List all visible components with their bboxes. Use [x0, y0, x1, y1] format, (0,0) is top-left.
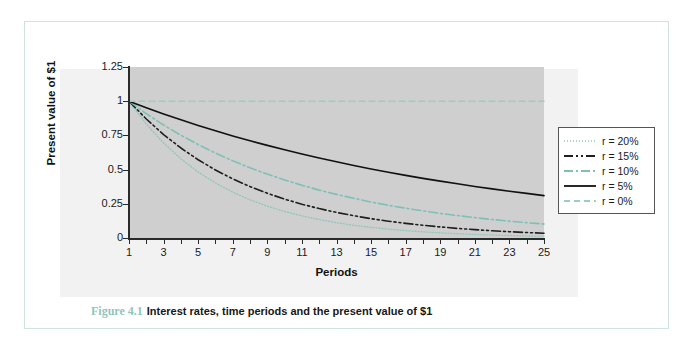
legend-label: r = 5%	[597, 180, 633, 192]
legend-item[interactable]: r = 15%	[563, 148, 650, 163]
x-tick-label: 5	[186, 246, 210, 258]
y-tick-mark	[123, 135, 129, 136]
x-tick-mark	[198, 239, 199, 244]
y-tick-label: 1	[79, 94, 123, 106]
legend-label: r = 20%	[597, 135, 638, 147]
legend-label: r = 0%	[597, 195, 633, 207]
x-tick-label: 15	[359, 246, 383, 258]
x-tick-label: 9	[255, 246, 279, 258]
y-axis-title: Present value of $1	[45, 43, 57, 183]
y-tick-label: 0	[79, 231, 123, 243]
y-tick-mark	[123, 67, 129, 68]
x-tick-label: 13	[325, 246, 349, 258]
y-tick-mark	[123, 101, 129, 102]
legend-item[interactable]: r = 10%	[563, 163, 650, 178]
x-tick-mark	[250, 239, 251, 244]
figure-caption: Figure 4.1Interest rates, time periods a…	[91, 304, 432, 319]
x-tick-label: 11	[290, 246, 314, 258]
x-tick-label: 23	[497, 246, 521, 258]
legend-label: r = 15%	[597, 150, 638, 162]
y-axis-line	[128, 66, 130, 239]
x-tick-mark	[544, 239, 545, 244]
chart-area: 00.250.50.7511.25 135791113151719212325 …	[25, 22, 670, 330]
legend-line-swatch	[563, 166, 597, 176]
series-line	[129, 101, 544, 195]
figure-number: Figure 4.1	[91, 304, 143, 318]
x-tick-label: 17	[394, 246, 418, 258]
legend-line-swatch	[563, 181, 597, 191]
x-tick-mark	[337, 239, 338, 244]
figure-container: 00.250.50.7511.25 135791113151719212325 …	[24, 21, 669, 329]
legend-line-swatch	[563, 196, 597, 206]
x-tick-label: 1	[117, 246, 141, 258]
x-tick-label: 7	[221, 246, 245, 258]
series-line	[129, 101, 544, 236]
legend-line-swatch	[563, 151, 597, 161]
x-tick-mark	[267, 239, 268, 244]
x-tick-label: 21	[463, 246, 487, 258]
x-tick-label: 25	[532, 246, 556, 258]
x-tick-mark	[302, 239, 303, 244]
x-tick-mark	[181, 239, 182, 244]
series-line	[129, 101, 544, 224]
x-tick-mark	[354, 239, 355, 244]
x-tick-label: 19	[428, 246, 452, 258]
legend-item[interactable]: r = 0%	[563, 193, 650, 208]
x-tick-mark	[164, 239, 165, 244]
x-tick-mark	[458, 239, 459, 244]
chart-legend: r = 20%r = 15%r = 10%r = 5%r = 0%	[558, 127, 655, 214]
x-tick-mark	[406, 239, 407, 244]
y-tick-label: 0.5	[79, 163, 123, 175]
x-tick-mark	[388, 239, 389, 244]
x-tick-mark	[146, 239, 147, 244]
x-tick-mark	[440, 239, 441, 244]
x-tick-mark	[285, 239, 286, 244]
x-tick-mark	[423, 239, 424, 244]
y-tick-label: 0.25	[79, 197, 123, 209]
x-axis-title: Periods	[129, 266, 544, 278]
y-tick-label: 1.25	[79, 60, 123, 72]
figure-caption-text: Interest rates, time periods and the pre…	[143, 305, 432, 317]
x-tick-mark	[527, 239, 528, 244]
legend-line-swatch	[563, 136, 597, 146]
y-tick-mark	[123, 204, 129, 205]
x-tick-mark	[371, 239, 372, 244]
y-tick-mark	[123, 170, 129, 171]
x-tick-mark	[215, 239, 216, 244]
legend-label: r = 10%	[597, 165, 638, 177]
x-tick-mark	[233, 239, 234, 244]
y-tick-label: 0.75	[79, 128, 123, 140]
x-tick-mark	[492, 239, 493, 244]
legend-item[interactable]: r = 20%	[563, 133, 650, 148]
x-tick-mark	[509, 239, 510, 244]
x-tick-mark	[475, 239, 476, 244]
x-tick-label: 3	[152, 246, 176, 258]
x-tick-mark	[129, 239, 130, 244]
x-tick-mark	[319, 239, 320, 244]
legend-item[interactable]: r = 5%	[563, 178, 650, 193]
